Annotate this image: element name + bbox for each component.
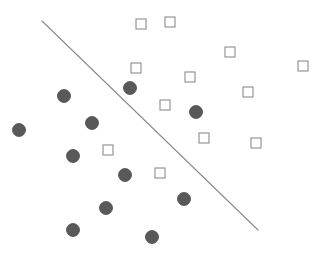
data-point-circle xyxy=(124,82,137,95)
data-point-circle xyxy=(67,224,80,237)
data-point-circle xyxy=(13,124,26,137)
data-point-circle xyxy=(58,90,71,103)
data-point-circle xyxy=(146,231,159,244)
data-point-circle xyxy=(100,202,113,215)
data-point-circle xyxy=(178,193,191,206)
data-point-circle xyxy=(119,169,132,182)
data-point-circle xyxy=(190,106,203,119)
scatter-plot-figure xyxy=(0,0,322,255)
data-point-circle xyxy=(67,150,80,163)
plot-background xyxy=(0,0,322,255)
data-point-circle xyxy=(86,117,99,130)
plot-canvas xyxy=(0,0,322,255)
